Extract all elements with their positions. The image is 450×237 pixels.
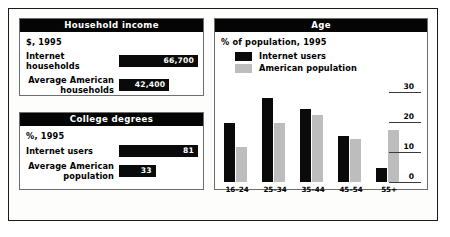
xtick-label-25-34: 25–34 [255, 185, 295, 194]
bar-group-16-24: 16–24 [223, 92, 251, 182]
bar-label-internet-households: Internet households [26, 51, 119, 71]
bar-average-american-population: 33 [119, 165, 156, 177]
panel-body-college-degrees: %, 1995 Internet users 81 Average Americ… [20, 126, 203, 189]
bar-value-internet-users: 81 [183, 145, 194, 157]
bar-american-population-45-54 [350, 139, 361, 182]
panel-title-household-income: Household income [20, 19, 203, 32]
bar-track-internet-users: 81 [119, 145, 198, 157]
units-label-age: % of population, 1995 [221, 37, 422, 47]
legend-swatch-internet-users [235, 52, 252, 61]
bar-american-population-35-44 [312, 115, 323, 183]
xtick-label-35-44: 35–44 [293, 185, 333, 194]
bar-track-internet-households: 66,700 [119, 55, 198, 67]
xtick-label-16-24: 16–24 [217, 185, 257, 194]
ytick-label-30: 30 [403, 82, 414, 91]
bar-value-internet-households: 66,700 [163, 55, 194, 67]
units-label-household-income: $, 1995 [26, 37, 198, 47]
legend-label-internet-users: Internet users [259, 51, 326, 61]
panel-title-age: Age [215, 19, 427, 32]
bar-track-average-american-households: 42,400 [119, 79, 198, 91]
bar-internet-users-45-54 [338, 136, 349, 182]
bar-value-average-american-population: 33 [141, 165, 152, 177]
xtick-label-45-54: 45–54 [331, 185, 371, 194]
figure-frame: Household income $, 1995 Internet househ… [8, 8, 438, 221]
ytick-rule-0 [389, 182, 421, 183]
bar-value-average-american-households: 42,400 [135, 79, 166, 91]
bar-row-average-american-population: Average American population 33 [26, 161, 198, 181]
bar-american-population-25-34 [274, 123, 285, 182]
panel-age: Age % of population, 1995 Internet users… [214, 18, 428, 190]
bar-label-internet-users: Internet users [26, 146, 119, 156]
panel-body-age: % of population, 1995 Internet users Ame… [215, 32, 427, 79]
ytick-rule-10 [389, 152, 421, 153]
bar-group-25-34: 25–34 [261, 92, 289, 182]
bar-row-average-american-households: Average American households 42,400 [26, 75, 198, 95]
ytick-rule-20 [389, 122, 421, 123]
bar-track-average-american-population: 33 [119, 165, 198, 177]
age-chart-y-axis: 30 20 10 0 [383, 76, 421, 184]
bar-internet-users-35-44 [300, 109, 311, 182]
ytick-label-10: 10 [403, 142, 414, 151]
legend-swatch-american-population [235, 64, 252, 73]
bar-american-population-16-24 [236, 147, 247, 182]
panel-college-degrees: College degrees %, 1995 Internet users 8… [19, 112, 204, 190]
bar-average-american-households: 42,400 [119, 79, 169, 91]
bar-row-internet-users: Internet users 81 [26, 145, 198, 157]
bar-row-internet-households: Internet households 66,700 [26, 51, 198, 71]
legend-item-internet-users: Internet users [235, 51, 422, 61]
ytick-rule-30 [389, 92, 421, 93]
ytick-label-0: 0 [409, 172, 414, 181]
panel-title-college-degrees: College degrees [20, 113, 203, 126]
bar-internet-users: 81 [119, 145, 198, 157]
legend-label-american-population: American population [259, 63, 357, 73]
panel-body-household-income: $, 1995 Internet households 66,700 Avera… [20, 32, 203, 103]
bar-group-35-44: 35–44 [299, 92, 327, 182]
panel-household-income: Household income $, 1995 Internet househ… [19, 18, 204, 96]
units-label-college-degrees: %, 1995 [26, 131, 198, 141]
legend-item-american-population: American population [235, 63, 422, 73]
bar-internet-households: 66,700 [119, 55, 198, 67]
bar-internet-users-25-34 [262, 98, 273, 182]
bar-internet-users-16-24 [224, 123, 235, 182]
ytick-label-20: 20 [403, 112, 414, 121]
bar-group-45-54: 45–54 [337, 92, 365, 182]
bar-label-average-american-population: Average American population [26, 161, 119, 181]
xtick-label-55-plus: 55+ [369, 185, 409, 194]
bar-label-average-american-households: Average American households [26, 75, 119, 95]
